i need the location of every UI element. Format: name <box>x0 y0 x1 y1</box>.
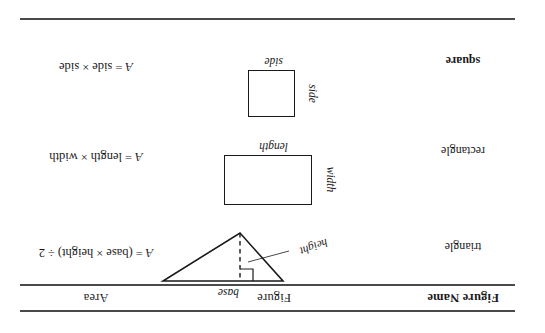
formula-triangle-close-paren: ) <box>58 246 62 260</box>
figure-triangle: base height <box>179 218 369 303</box>
formula-triangle: A=(base×height)÷2 <box>21 245 171 261</box>
formula-triangle-operator: × <box>93 246 106 260</box>
formula-triangle-term2: height <box>62 246 93 260</box>
formula-rectangle-lhs: A <box>135 150 143 164</box>
formula-square-term2: side <box>59 60 79 74</box>
scanned-page: Figure Name Figure Area square side side… <box>0 0 545 333</box>
formula-square-equals: = <box>112 60 125 74</box>
row-label-square: square <box>403 53 523 68</box>
formula-rectangle: A=length×width <box>21 149 171 165</box>
square-outline <box>248 70 295 117</box>
triangle-label-base: base <box>218 286 239 299</box>
row-label-triangle: triangle <box>403 239 523 254</box>
formula-triangle-open-paren: ( <box>128 246 132 260</box>
formula-triangle-term1: base <box>106 246 128 260</box>
formula-rectangle-operator: × <box>78 150 91 164</box>
square-label-left: side <box>306 84 319 103</box>
formula-triangle-divide: ÷ <box>45 246 58 260</box>
triangle-drawing <box>179 218 369 303</box>
formula-square-lhs: A <box>125 60 133 74</box>
height-leader-line <box>248 251 289 262</box>
rectangle-outline <box>224 155 312 205</box>
rectangle-label-left: width <box>324 167 337 193</box>
formula-rectangle-equals: = <box>122 150 135 164</box>
column-header-area: Area <box>21 290 171 306</box>
formula-rectangle-term2: width <box>49 150 77 164</box>
triangle-outline <box>163 233 283 281</box>
formula-triangle-divisor: 2 <box>39 246 45 260</box>
formula-square-term1: side <box>92 60 112 74</box>
rectangle-label-bottom: length <box>259 140 288 153</box>
formula-rectangle-term1: length <box>91 150 122 164</box>
figure-rectangle: length width <box>179 130 369 215</box>
row-label-rectangle: rectangle <box>403 143 523 158</box>
formula-square: A=side×side <box>21 59 171 75</box>
column-header-figure-name: Figure Name <box>403 290 523 306</box>
table-bottom-rule <box>20 18 515 20</box>
figure-square: side side <box>179 48 369 128</box>
table-top-rule <box>20 310 515 312</box>
square-label-bottom: side <box>264 55 283 68</box>
formula-triangle-equals: = <box>133 246 146 260</box>
area-formulas-table: Figure Name Figure Area square side side… <box>0 0 545 333</box>
formula-square-operator: × <box>79 60 92 74</box>
right-angle-marker-icon <box>240 269 253 281</box>
formula-triangle-lhs: A <box>146 246 154 260</box>
